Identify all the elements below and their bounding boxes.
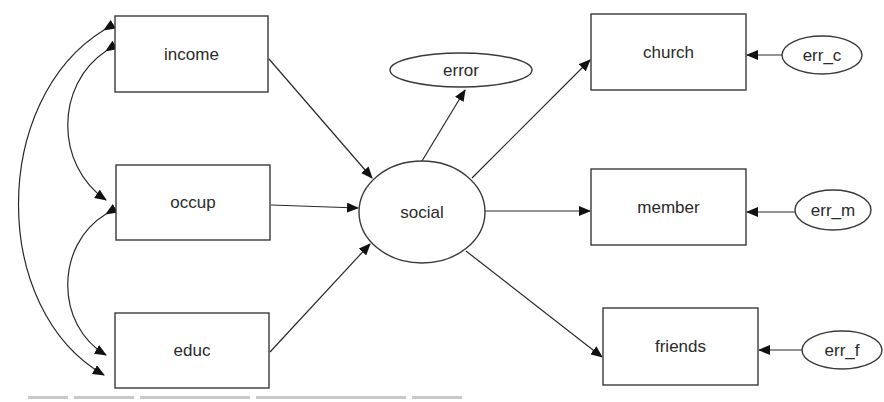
node-member-label: member — [637, 198, 700, 217]
node-member: member — [591, 169, 746, 245]
node-church-label: church — [643, 43, 694, 62]
caption-fragment — [28, 396, 68, 399]
edge-income-social — [269, 59, 372, 178]
node-error: error — [390, 53, 532, 87]
edge-occup-social — [271, 205, 358, 208]
node-err-c-label: err_c — [803, 46, 842, 65]
node-err-m: err_m — [795, 190, 871, 230]
node-social: social — [359, 161, 485, 263]
node-occup-label: occup — [170, 193, 215, 212]
node-social-label: social — [400, 203, 443, 222]
node-err-f-label: err_f — [825, 341, 860, 360]
node-error-label: error — [443, 61, 479, 80]
cropped-caption — [28, 396, 468, 402]
edge-educ-social — [270, 244, 370, 352]
edge-social-friends — [466, 251, 602, 357]
node-occup: occup — [116, 165, 270, 240]
node-friends: friends — [603, 308, 758, 385]
caption-fragment — [140, 396, 250, 399]
edge-social-error — [422, 90, 465, 161]
node-educ: educ — [115, 313, 269, 388]
node-err-m-label: err_m — [811, 201, 855, 220]
node-educ-label: educ — [174, 341, 211, 360]
caption-fragment — [256, 396, 406, 399]
caption-fragment — [74, 396, 134, 399]
covariance-income-educ — [19, 30, 105, 375]
covariance-income-occup — [68, 51, 106, 200]
node-err-c: err_c — [782, 36, 862, 74]
covariance-occup-educ — [68, 214, 106, 355]
node-friends-label: friends — [655, 337, 706, 356]
node-err-f: err_f — [802, 331, 882, 369]
node-income: income — [115, 16, 268, 92]
path-diagram: income occup educ social error church me… — [0, 0, 884, 402]
node-income-label: income — [164, 45, 219, 64]
caption-fragment — [412, 396, 462, 399]
node-church: church — [591, 14, 746, 90]
